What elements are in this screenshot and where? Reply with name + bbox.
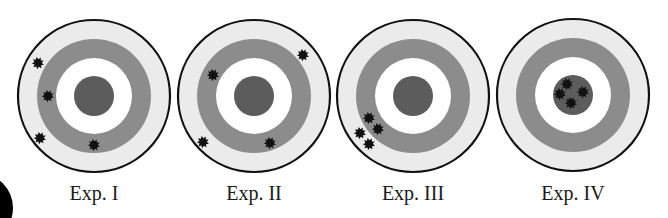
label-exp-1: Exp. I — [34, 181, 154, 205]
target-exp-2 — [178, 20, 330, 172]
target-exp-4 — [497, 19, 649, 171]
target-diagram: Exp. I Exp. II Exp. III Exp. IV — [0, 0, 668, 218]
target-exp-1 — [18, 20, 170, 172]
corner-blob — [0, 173, 13, 218]
label-exp-2: Exp. II — [194, 181, 314, 205]
label-exp-3: Exp. III — [353, 181, 473, 205]
bullseye — [234, 76, 274, 116]
target-exp-3 — [337, 20, 489, 172]
label-exp-4: Exp. IV — [513, 181, 633, 205]
bullseye — [74, 76, 114, 116]
bullseye — [393, 76, 433, 116]
